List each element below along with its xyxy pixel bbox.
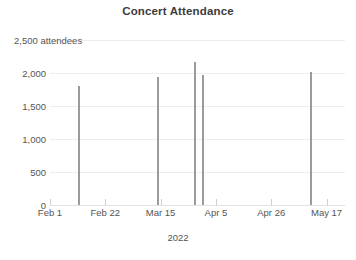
x-axis-tick-label: Feb 22 — [91, 207, 121, 218]
x-axis-tick-label: May 17 — [311, 207, 342, 218]
x-axis-tick — [161, 199, 162, 205]
x-axis-tick — [50, 199, 51, 205]
y-axis-tick-label: 1,500 — [22, 101, 46, 112]
bar[interactable] — [202, 75, 204, 205]
x-axis-tick-label: Mar 15 — [146, 207, 176, 218]
x-axis-tick-label: Apr 5 — [205, 207, 228, 218]
chart-title: Concert Attendance — [0, 5, 356, 17]
bars-layer — [50, 40, 345, 205]
bar[interactable] — [78, 86, 80, 205]
bar[interactable] — [194, 62, 196, 205]
x-axis-title: 2022 — [0, 232, 356, 243]
x-axis-tick-label: Feb 1 — [38, 207, 62, 218]
x-axis-tick — [271, 199, 272, 205]
x-axis-tick — [216, 199, 217, 205]
y-axis-tick-label: 500 — [30, 167, 46, 178]
bar[interactable] — [310, 72, 312, 205]
plot-area — [50, 40, 345, 205]
y-axis-tick-label: 1,000 — [22, 134, 46, 145]
concert-attendance-chart: Concert Attendance 05001,0001,5002,0002,… — [0, 0, 356, 260]
y-axis-tick-label: 2,000 — [22, 68, 46, 79]
x-axis-tick — [105, 199, 106, 205]
x-axis-ticks — [50, 199, 345, 206]
x-axis-labels: Feb 1Feb 22Mar 15Apr 5Apr 26May 17 — [0, 207, 356, 221]
x-axis-tick — [327, 199, 328, 205]
bar[interactable] — [157, 77, 159, 205]
x-axis-tick-label: Apr 26 — [257, 207, 285, 218]
